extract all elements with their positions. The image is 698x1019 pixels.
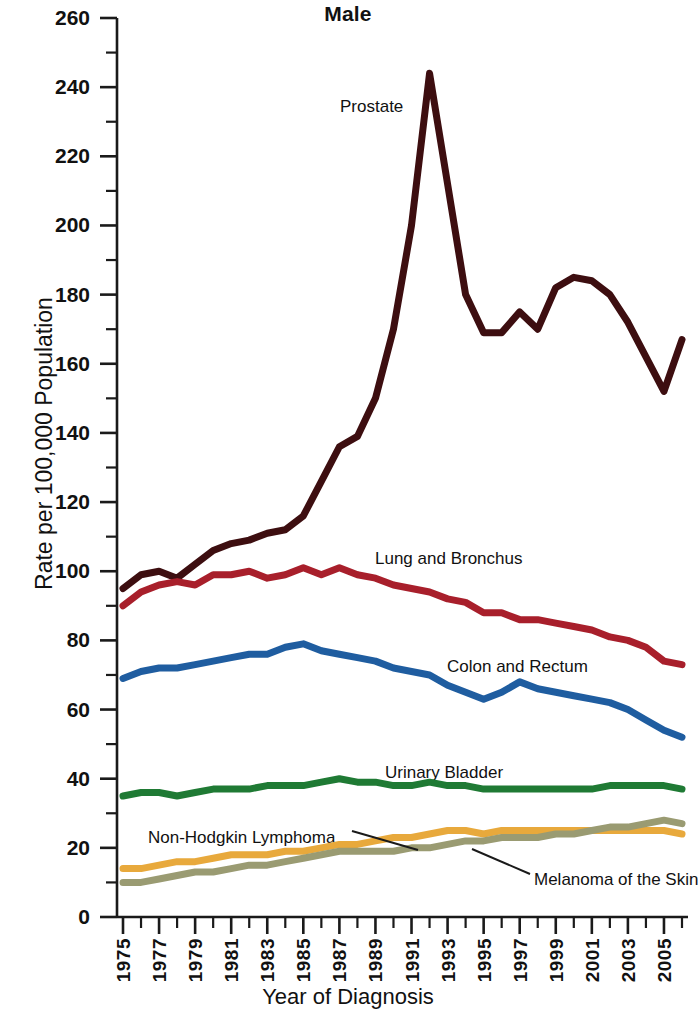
leader-line bbox=[472, 849, 530, 874]
series-line-urinary-bladder bbox=[123, 779, 682, 796]
series-line-colon-and-rectum bbox=[123, 644, 682, 737]
series-line-lung-and-bronchus bbox=[123, 568, 682, 665]
x-axis-ticks bbox=[123, 917, 682, 934]
y-axis-ticks bbox=[100, 18, 117, 917]
series-lines bbox=[123, 73, 682, 882]
series-line-melanoma-of-the-skin bbox=[123, 820, 682, 882]
series-line-prostate bbox=[123, 73, 682, 588]
